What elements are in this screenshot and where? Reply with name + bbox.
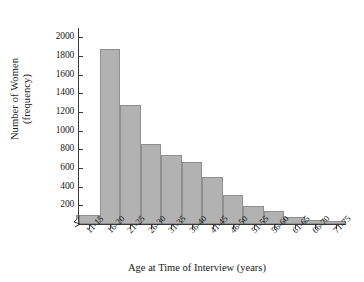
y-axis-title-line-1: Number of Women [9,58,20,140]
histogram-bar [141,144,162,224]
y-axis-tick-label: 1400 [40,88,74,98]
y-axis-tick-labels: 200400600800100012001400160018002000 [40,28,74,225]
histogram-bar [100,49,121,224]
plot-area: 200400600800100012001400160018002000 [78,28,346,225]
x-axis-tick-labels: 11-1516-2021-2526-3031-3536-4041-4546-50… [78,228,358,260]
x-axis-title: Age at Time of Interview (years) [0,262,364,274]
y-axis-tick-label: 1000 [40,126,74,136]
histogram-bar [120,105,141,224]
y-axis-tick-label: 800 [40,144,74,154]
y-axis-title-line-2: (frequency) [21,29,33,169]
y-axis-tick-label: 600 [40,163,74,173]
y-axis-tick-label: 1600 [40,70,74,80]
y-axis-tick-label: 2000 [40,32,74,42]
y-axis-tick-label: 1800 [40,51,74,61]
histogram-figure: Number of Women (frequency) 200400600800… [0,0,364,282]
y-axis-title: Number of Women (frequency) [9,29,43,169]
y-axis-tick-label: 400 [40,182,74,192]
y-axis-tick-label: 200 [40,200,74,210]
y-axis-tick-label: 1200 [40,107,74,117]
bar-series [79,28,346,224]
